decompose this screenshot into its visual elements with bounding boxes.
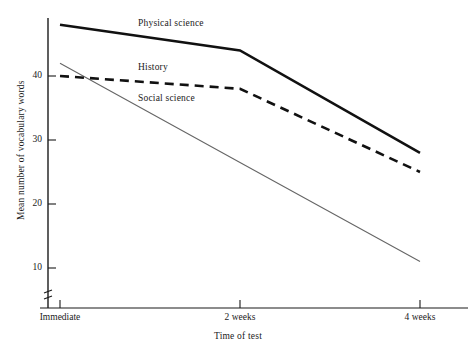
series-label-physical-science: Physical science [138, 18, 204, 28]
series-line-history [60, 76, 420, 172]
series-label-history: History [138, 62, 168, 72]
series-label-social-science: Social science [138, 93, 195, 103]
y-tick-label-40: 40 [16, 70, 42, 80]
y-axis-title: Mean number of vocabulary words [16, 90, 26, 220]
x-tick-label-4-weeks: 4 weeks [375, 312, 465, 322]
x-axis-title: Time of test [0, 331, 476, 341]
x-tick-label-2-weeks: 2 weeks [195, 312, 285, 322]
chart-container: 40 30 20 10 Immediate 2 weeks 4 weeks Me… [0, 0, 476, 348]
y-tick-label-10: 10 [16, 262, 42, 272]
series-line-social-science [60, 63, 420, 261]
chart-plot-area [0, 0, 476, 348]
x-tick-label-immediate: Immediate [15, 312, 105, 322]
